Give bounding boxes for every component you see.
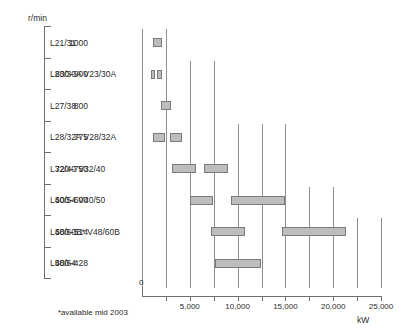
category-axis-tick bbox=[44, 215, 51, 216]
row-engine-label: L40/54 V40/50 bbox=[50, 195, 105, 205]
gridline bbox=[357, 218, 358, 288]
row-engine-label: L48/60B* V48/60B bbox=[50, 227, 120, 237]
power-range-bar bbox=[172, 164, 196, 173]
power-range-bar bbox=[211, 227, 245, 236]
category-axis-tick bbox=[44, 152, 51, 153]
x-axis-tick bbox=[357, 296, 358, 301]
row-engine-label: L32/40 V32/40 bbox=[50, 164, 105, 174]
x-axis-tick-label: 10,000 bbox=[225, 302, 249, 311]
gridline bbox=[214, 61, 215, 289]
chart-row: 500–600L40/54 V40/50 bbox=[44, 186, 144, 214]
x-axis-tick-label: 25,000 bbox=[369, 302, 393, 311]
power-range-bar bbox=[215, 259, 262, 268]
category-axis-tick bbox=[44, 121, 51, 122]
gridline bbox=[190, 61, 191, 289]
gridline bbox=[285, 124, 286, 289]
x-axis-tick bbox=[238, 296, 239, 301]
category-axis-tick bbox=[44, 184, 51, 185]
gridline bbox=[166, 29, 167, 288]
power-range-bar bbox=[190, 196, 213, 205]
x-axis-tick bbox=[214, 296, 215, 301]
chart-row: 1000L21/31 bbox=[44, 29, 144, 57]
footnote-text: *available mid 2003 bbox=[58, 308, 128, 317]
x-axis-tick-label: 20,000 bbox=[321, 302, 345, 311]
power-range-bar bbox=[204, 164, 228, 173]
power-range-bar bbox=[151, 70, 155, 79]
power-range-bar bbox=[282, 227, 346, 236]
category-axis-tick bbox=[44, 278, 51, 279]
x-axis-tick bbox=[285, 296, 286, 301]
x-axis-tick-label: 5,000 bbox=[180, 302, 200, 311]
power-range-bar bbox=[170, 133, 182, 142]
category-axis-tick bbox=[44, 89, 51, 90]
chart-row: 800–900L23/30A V23/30A bbox=[44, 60, 144, 88]
chart-row: 500–514L48/60B* V48/60B bbox=[44, 218, 144, 246]
gridline bbox=[262, 124, 263, 289]
gridline bbox=[142, 29, 143, 288]
gridline bbox=[309, 187, 310, 289]
y-axis-unit-label: r/min bbox=[28, 13, 47, 23]
chart-row: 400–428L58/64 bbox=[44, 249, 144, 277]
x-axis-zero-label: 0 bbox=[139, 278, 143, 287]
chart-row: 800L27/38 bbox=[44, 92, 144, 120]
x-axis-tick-label: 15,000 bbox=[273, 302, 297, 311]
x-axis-tick bbox=[333, 296, 334, 301]
chart-row: 775L28/32A V28/32A bbox=[44, 123, 144, 151]
gridline bbox=[333, 187, 334, 289]
x-axis-unit-label: kW bbox=[357, 315, 369, 325]
category-axis-tick bbox=[44, 247, 51, 248]
power-range-bar bbox=[157, 70, 161, 79]
row-engine-label: L21/31 bbox=[50, 38, 76, 48]
power-range-bar bbox=[231, 196, 285, 205]
row-engine-label: L27/38 bbox=[50, 101, 76, 111]
power-range-bar bbox=[153, 133, 165, 142]
row-engine-label: L23/30A V23/30A bbox=[50, 69, 116, 79]
x-axis-tick bbox=[190, 296, 191, 301]
category-axis-tick bbox=[44, 58, 51, 59]
power-range-bar bbox=[161, 101, 171, 110]
x-axis-tick bbox=[309, 296, 310, 301]
power-range-bar bbox=[153, 38, 162, 47]
chart-row: 720–750L32/40 V32/40 bbox=[44, 155, 144, 183]
x-axis-tick bbox=[381, 296, 382, 301]
gridline bbox=[381, 218, 382, 288]
row-engine-label: L28/32A V28/32A bbox=[50, 132, 116, 142]
x-axis-tick bbox=[166, 296, 167, 301]
row-engine-label: L58/64 bbox=[50, 258, 76, 268]
x-axis-tick bbox=[262, 296, 263, 301]
engine-power-range-chart: r/min kW 1000L21/31800–900L23/30A V23/30… bbox=[0, 0, 408, 335]
category-axis-tick bbox=[44, 26, 51, 27]
